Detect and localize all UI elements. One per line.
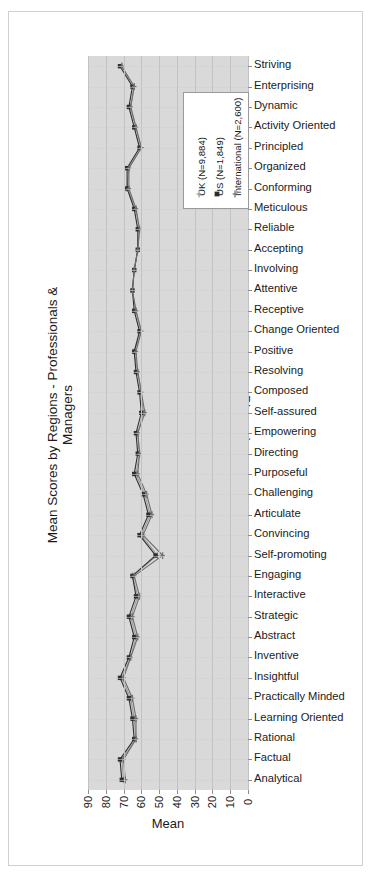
vertical-gridline	[88, 56, 89, 790]
horizontal-gridline	[88, 576, 248, 577]
horizontal-gridline	[88, 290, 248, 291]
horizontal-gridline	[88, 250, 248, 251]
horizontal-gridline	[88, 780, 248, 781]
y-tick-mark	[248, 433, 252, 434]
y-tick-mark	[248, 87, 252, 88]
y-tick-label-activity-oriented: Activity Oriented	[254, 119, 335, 131]
vertical-gridline	[177, 56, 178, 790]
horizontal-gridline	[88, 311, 248, 312]
y-tick-label-factual: Factual	[254, 751, 291, 763]
y-tick-label-positive: Positive	[254, 344, 293, 356]
y-tick-label-abstract: Abstract	[254, 629, 295, 641]
y-tick-mark	[248, 739, 252, 740]
horizontal-gridline	[88, 87, 248, 88]
y-tick-mark	[248, 331, 252, 332]
y-tick-mark	[248, 719, 252, 720]
y-tick-mark	[248, 454, 252, 455]
y-tick-label-conforming: Conforming	[254, 181, 312, 193]
y-tick-label-composed: Composed	[254, 384, 308, 396]
y-tick-label-attentive: Attentive	[254, 282, 298, 294]
horizontal-gridline	[88, 678, 248, 679]
y-tick-label-learning-oriented: Learning Oriented	[254, 711, 344, 723]
y-tick-mark	[248, 250, 252, 251]
y-tick-label-enterprising: Enterprising	[254, 79, 314, 91]
y-tick-mark	[248, 352, 252, 353]
y-tick-mark	[248, 576, 252, 577]
horizontal-gridline	[88, 372, 248, 373]
y-tick-mark	[248, 413, 252, 414]
y-tick-mark	[248, 535, 252, 536]
y-tick-mark	[248, 780, 252, 781]
horizontal-gridline	[88, 494, 248, 495]
vertical-gridline	[106, 56, 107, 790]
horizontal-gridline	[88, 556, 248, 557]
horizontal-gridline	[88, 657, 248, 658]
y-tick-mark	[248, 392, 252, 393]
horizontal-gridline	[88, 433, 248, 434]
horizontal-gridline	[88, 413, 248, 414]
x-tick-label: 0	[242, 792, 254, 812]
y-tick-mark	[248, 678, 252, 679]
y-tick-mark	[248, 290, 252, 291]
horizontal-gridline	[88, 719, 248, 720]
y-tick-label-self-promoting: Self-promoting	[254, 548, 327, 560]
y-tick-label-analytical: Analytical	[254, 772, 302, 784]
horizontal-gridline	[88, 66, 248, 67]
horizontal-gridline	[88, 474, 248, 475]
chart-root: Mean Scores by Regions - Professionals &…	[0, 0, 389, 893]
y-tick-mark	[248, 494, 252, 495]
vertical-gridline	[124, 56, 125, 790]
y-tick-label-insightful: Insightful	[254, 670, 299, 682]
horizontal-gridline	[88, 454, 248, 455]
horizontal-gridline	[88, 535, 248, 536]
y-tick-mark	[248, 372, 252, 373]
y-tick-mark	[248, 515, 252, 516]
y-tick-label-purposeful: Purposeful	[254, 466, 308, 478]
x-tick-label: 50	[153, 792, 165, 812]
y-tick-label-accepting: Accepting	[254, 242, 303, 254]
horizontal-gridline	[88, 698, 248, 699]
y-tick-label-practically-minded: Practically Minded	[254, 690, 345, 702]
x-tick-label: 70	[118, 792, 130, 812]
x-tick-label: 40	[171, 792, 183, 812]
x-tick-label: 20	[206, 792, 218, 812]
horizontal-gridline	[88, 739, 248, 740]
horizontal-gridline	[88, 270, 248, 271]
y-tick-label-challenging: Challenging	[254, 486, 313, 498]
y-tick-mark	[248, 759, 252, 760]
y-tick-mark	[248, 617, 252, 618]
x-tick-label: 90	[82, 792, 94, 812]
y-tick-mark	[248, 229, 252, 230]
y-tick-mark	[248, 474, 252, 475]
y-tick-mark	[248, 637, 252, 638]
horizontal-gridline	[88, 392, 248, 393]
y-tick-label-meticulous: Meticulous	[254, 201, 307, 213]
chart-legend: UK (N=9,884) US (N=1,849) International …	[183, 92, 249, 209]
vertical-gridline	[141, 56, 142, 790]
x-tick-label: 10	[224, 792, 236, 812]
y-tick-label-inventive: Inventive	[254, 649, 299, 661]
y-tick-mark	[248, 657, 252, 658]
y-tick-label-striving: Striving	[254, 58, 291, 70]
y-tick-label-interactive: Interactive	[254, 588, 306, 600]
y-tick-mark	[248, 698, 252, 699]
y-tick-label-convincing: Convincing	[254, 527, 309, 539]
y-tick-label-rational: Rational	[254, 731, 295, 743]
y-tick-label-organized: Organized	[254, 160, 306, 172]
y-tick-label-principled: Principled	[254, 140, 303, 152]
horizontal-gridline	[88, 617, 248, 618]
y-tick-mark	[248, 66, 252, 67]
y-tick-label-strategic: Strategic	[254, 609, 298, 621]
y-tick-label-reliable: Reliable	[254, 221, 294, 233]
y-tick-label-receptive: Receptive	[254, 303, 304, 315]
y-tick-label-change-oriented: Change Oriented	[254, 323, 339, 335]
horizontal-gridline	[88, 596, 248, 597]
y-tick-label-involving: Involving	[254, 262, 298, 274]
y-tick-label-engaging: Engaging	[254, 568, 301, 580]
y-tick-mark	[248, 311, 252, 312]
horizontal-gridline	[88, 637, 248, 638]
y-tick-mark	[248, 596, 252, 597]
horizontal-gridline	[88, 515, 248, 516]
x-axis-label: Mean	[88, 816, 248, 831]
x-tick-label: 30	[189, 792, 201, 812]
